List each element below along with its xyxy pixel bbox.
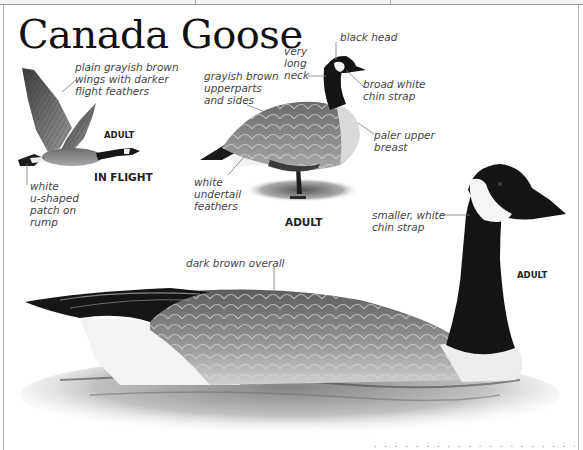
flight-pose-label: IN FLIGHT [94,171,153,183]
swimming-goose-figure [20,164,566,435]
standing-age-label: ADULT [285,216,322,228]
flight-age-label: ADULT [104,130,134,140]
annotation-rump: white u-shaped patch on rump [30,180,79,228]
annotation-undertail: white undertail feathers [194,176,241,212]
annotation-wings: plain grayish brown wings with darker fl… [75,61,179,97]
annotation-smaller-chin-strap: smaller, white chin strap [372,209,445,233]
dotted-rule [370,445,575,448]
annotation-head: black head [340,31,397,43]
swimming-age-label: ADULT [517,270,547,280]
annotation-body: dark brown overall [186,257,285,269]
annotation-breast: paler upper breast [374,129,435,153]
annotation-upperparts: grayish brown upperparts and sides [204,70,279,106]
annotation-broad-chin-strap: broad white chin strap [363,78,426,102]
annotation-neck: very long neck [284,45,309,81]
